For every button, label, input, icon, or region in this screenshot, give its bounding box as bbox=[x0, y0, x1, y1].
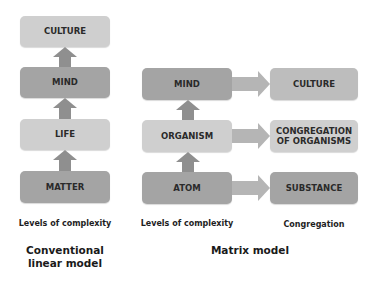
matrix-level-label: ATOM bbox=[173, 183, 200, 193]
linear-box-label: CULTURE bbox=[44, 26, 86, 36]
matrix-level-atom: ATOM bbox=[142, 172, 232, 204]
matrix-level-label: MIND bbox=[174, 79, 200, 89]
right-arrow-icon bbox=[232, 77, 270, 91]
up-arrow-icon bbox=[59, 47, 71, 67]
matrix-congregation-axis-label: Congregation bbox=[262, 220, 366, 229]
right-arrow-icon bbox=[232, 181, 270, 195]
linear-axis-label: Levels of complexity bbox=[10, 219, 120, 228]
up-arrow-icon bbox=[182, 152, 194, 172]
matrix-congregation-organisms: CONGREGATION OF ORGANISMS bbox=[270, 120, 358, 152]
matrix-congregation-label: CULTURE bbox=[293, 79, 335, 89]
linear-box-label: MIND bbox=[52, 77, 78, 87]
matrix-level-mind: MIND bbox=[142, 68, 232, 100]
matrix-levels-label: Levels of complexity bbox=[132, 219, 242, 228]
matrix-congregation-label: CONGREGATION OF ORGANISMS bbox=[274, 126, 354, 146]
linear-box-mind: MIND bbox=[20, 67, 110, 98]
linear-box-label: LIFE bbox=[55, 129, 75, 139]
matrix-model-title: Matrix model bbox=[190, 244, 310, 257]
up-arrow-icon bbox=[59, 150, 71, 171]
matrix-level-organism: ORGANISM bbox=[142, 120, 232, 152]
up-arrow-icon bbox=[59, 98, 71, 119]
linear-box-label: MATTER bbox=[46, 182, 85, 192]
linear-box-life: LIFE bbox=[20, 119, 110, 150]
linear-box-culture: CULTURE bbox=[20, 16, 110, 47]
right-arrow-icon bbox=[232, 129, 270, 143]
matrix-congregation-culture: CULTURE bbox=[270, 68, 358, 100]
linear-box-matter: MATTER bbox=[20, 171, 110, 203]
linear-model-title: Conventional linear model bbox=[12, 244, 118, 270]
matrix-congregation-substance: SUBSTANCE bbox=[270, 172, 358, 204]
matrix-congregation-label: SUBSTANCE bbox=[286, 183, 343, 193]
matrix-level-label: ORGANISM bbox=[161, 131, 213, 141]
up-arrow-icon bbox=[182, 100, 194, 120]
